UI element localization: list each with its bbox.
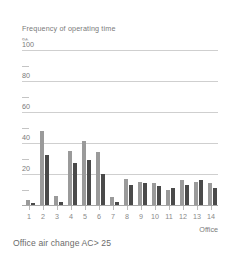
chart-caption: Office air change AC> 25	[13, 238, 111, 248]
x-axis-tick-label: 14	[204, 212, 218, 221]
x-axis-tick	[169, 206, 170, 210]
bar	[124, 179, 128, 205]
x-axis-tick-label: 12	[176, 212, 190, 221]
x-axis-tick	[127, 206, 128, 210]
x-axis-title: Office	[199, 225, 218, 234]
x-axis-tick	[113, 206, 114, 210]
x-axis-tick-label: 11	[162, 212, 176, 221]
x-axis-tick	[85, 206, 86, 210]
x-axis-tick-label: 8	[120, 212, 134, 221]
x-axis-tick	[43, 206, 44, 210]
bar	[185, 185, 189, 205]
x-axis-line	[22, 205, 218, 206]
chart-title: Frequency of operating time	[22, 24, 116, 33]
x-axis-tick-label: 5	[78, 212, 92, 221]
x-axis-tick	[183, 206, 184, 210]
bar	[143, 183, 147, 205]
bar	[213, 188, 217, 205]
bar	[194, 182, 198, 205]
x-axis-tick	[211, 206, 212, 210]
x-axis-tick-label: 3	[50, 212, 64, 221]
chart-figure: Frequency of operating time % 2040608010…	[0, 0, 229, 254]
plot-area: 20406080100 1234567891011121314	[22, 50, 218, 205]
bar	[101, 174, 105, 205]
x-axis-tick	[141, 206, 142, 210]
x-axis-tick	[197, 206, 198, 210]
y-axis-tick-label: 100	[22, 41, 36, 49]
x-axis-tick	[99, 206, 100, 210]
bar	[82, 141, 86, 205]
bar	[157, 186, 161, 205]
bar	[45, 155, 49, 205]
bar	[138, 182, 142, 205]
x-axis-tick-label: 13	[190, 212, 204, 221]
bar	[110, 197, 114, 205]
bar	[87, 160, 91, 205]
bar	[171, 188, 175, 205]
bar	[152, 183, 156, 205]
bar	[129, 185, 133, 205]
bar	[208, 183, 212, 205]
bar	[166, 190, 170, 206]
x-axis-tick-label: 1	[22, 212, 36, 221]
bar	[40, 131, 44, 205]
x-axis-tick	[57, 206, 58, 210]
bar	[199, 180, 203, 205]
bar	[54, 196, 58, 205]
x-axis-tick	[29, 206, 30, 210]
x-axis-tick-label: 4	[64, 212, 78, 221]
x-axis-tick	[71, 206, 72, 210]
bar	[96, 152, 100, 205]
x-axis-tick	[155, 206, 156, 210]
x-axis-tick-label: 10	[148, 212, 162, 221]
bar	[180, 180, 184, 205]
x-axis-tick-label: 2	[36, 212, 50, 221]
x-axis-tick-label: 6	[92, 212, 106, 221]
bar	[73, 163, 77, 205]
bar-series-container	[22, 50, 218, 205]
bar	[68, 151, 72, 205]
x-axis-tick-label: 9	[134, 212, 148, 221]
x-axis-tick-label: 7	[106, 212, 120, 221]
